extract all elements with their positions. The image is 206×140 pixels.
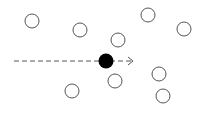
static-particle-circle xyxy=(73,23,87,37)
static-particle-circle xyxy=(25,14,39,28)
static-particle-circle xyxy=(177,22,191,36)
trajectory-arrow xyxy=(14,57,133,65)
static-particle-circle xyxy=(111,33,125,47)
static-particle-circle xyxy=(108,74,122,88)
static-particle-circle xyxy=(141,8,155,22)
moving-particle-group xyxy=(99,54,114,69)
static-particle-circle xyxy=(152,67,166,81)
static-particle-circle xyxy=(65,84,79,98)
moving-particle-dot xyxy=(99,54,114,69)
particle-diagram xyxy=(0,0,206,140)
static-particle-circle xyxy=(156,89,170,103)
